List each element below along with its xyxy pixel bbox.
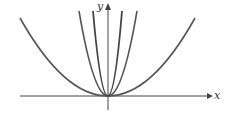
parabola-diagram [0, 0, 229, 113]
y-axis-arrow-icon [105, 3, 111, 10]
x-axis-arrow-icon [207, 93, 213, 99]
y-axis-label: y [97, 0, 103, 13]
x-axis-label: x [214, 89, 220, 102]
